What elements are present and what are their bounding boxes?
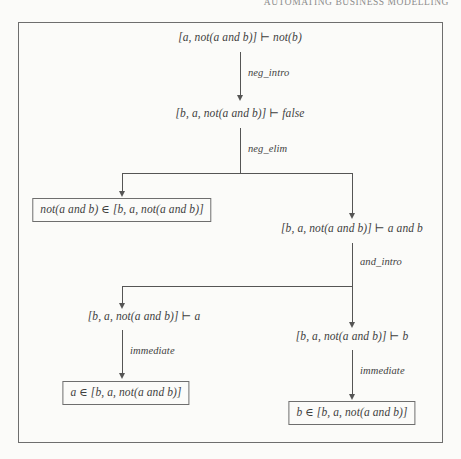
edge-and-intro-bus [122, 286, 353, 287]
edge-neg-elim-stem [240, 128, 241, 173]
node-membership-notab: not(a and b) ∈ [b, a, not(a and b)] [32, 198, 211, 222]
edge-neg-elim-right-arrow [349, 213, 355, 219]
edge-label-immediate-right: immediate [360, 365, 405, 376]
edge-neg-elim-left-arrow [119, 191, 125, 197]
edge-neg-elim-bus [122, 173, 353, 174]
edge-label-immediate-left: immediate [130, 345, 175, 356]
edge-immediate-right-line [352, 350, 353, 396]
edge-immediate-left-arrow [119, 373, 125, 379]
edge-neg-intro-arrow [237, 95, 243, 101]
node-a-goal: [b, a, not(a and b)] ⊢ a [88, 310, 201, 323]
node-false-goal: [b, a, not(a and b)] ⊢ false [176, 107, 305, 120]
edge-and-intro-left-arrow [119, 303, 125, 309]
node-membership-a: a ∈ [b, a, not(a and b)] [62, 381, 189, 405]
node-membership-b: b ∈ [b, a, not(a and b)] [288, 401, 415, 425]
node-a-and-b-goal: [b, a, not(a and b)] ⊢ a and b [281, 222, 423, 235]
scanned-page: AUTOMATING BUSINESS MODELLING [a, not(a … [0, 0, 461, 459]
edge-label-and-intro: and_intro [360, 256, 402, 267]
edge-label-neg-elim: neg_elim [248, 143, 287, 154]
edge-and-intro-right-arrow [349, 322, 355, 328]
node-b-goal: [b, a, not(a and b)] ⊢ b [296, 330, 409, 343]
edge-and-intro-right-drop [352, 286, 353, 324]
edge-neg-elim-right-drop [352, 173, 353, 215]
edge-immediate-left-line [122, 330, 123, 375]
edge-immediate-right-arrow [349, 394, 355, 400]
edge-label-neg-intro: neg_intro [248, 67, 289, 78]
edge-neg-intro-line [240, 52, 241, 97]
edge-and-intro-stem [352, 243, 353, 286]
edge-neg-elim-left-drop [122, 173, 123, 193]
node-goal: [a, not(a and b)] ⊢ not(b) [178, 31, 302, 44]
running-header: AUTOMATING BUSINESS MODELLING [264, 0, 449, 7]
